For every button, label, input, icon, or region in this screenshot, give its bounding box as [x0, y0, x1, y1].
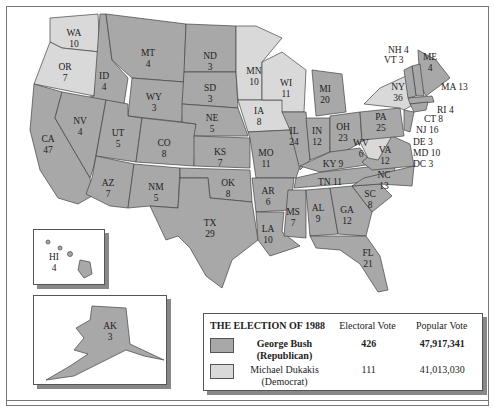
svg-text:ND: ND [203, 51, 217, 61]
candidate-name: Michael Dukakis [240, 364, 329, 376]
svg-text:20: 20 [320, 95, 330, 105]
svg-text:IN: IN [312, 126, 322, 136]
svg-text:SD: SD [204, 83, 216, 93]
svg-text:4: 4 [78, 127, 83, 137]
svg-text:11: 11 [281, 89, 290, 99]
svg-text:3: 3 [208, 62, 213, 72]
svg-text:12: 12 [312, 137, 322, 147]
svg-text:AZ: AZ [102, 178, 115, 188]
electoral-vote: 426 [329, 338, 408, 349]
svg-text:NJ 16: NJ 16 [416, 125, 439, 135]
svg-text:UT: UT [112, 128, 125, 138]
svg-text:12: 12 [342, 216, 352, 226]
svg-text:23: 23 [338, 133, 348, 143]
republican-swatch [210, 338, 234, 353]
candidate-party: (Democrat) [240, 376, 329, 388]
svg-text:NE: NE [206, 113, 219, 123]
svg-text:4: 4 [428, 63, 433, 73]
svg-text:5: 5 [116, 139, 121, 149]
svg-text:NM: NM [148, 182, 164, 192]
popular-vote-header: Popular Vote [408, 320, 476, 331]
svg-text:NH 4: NH 4 [388, 45, 409, 55]
hawaii-inset: HI 4 [33, 229, 105, 285]
svg-text:GA: GA [340, 205, 354, 215]
svg-text:MT: MT [141, 48, 155, 58]
svg-text:TX: TX [204, 218, 217, 228]
svg-text:ME: ME [423, 52, 437, 62]
svg-text:NC: NC [377, 170, 390, 180]
svg-text:3: 3 [152, 103, 157, 113]
svg-text:DE 3: DE 3 [413, 137, 433, 147]
democrat-swatch [210, 364, 234, 379]
svg-text:VA: VA [379, 145, 392, 155]
svg-text:OR: OR [58, 62, 72, 72]
svg-text:TN 11: TN 11 [318, 177, 342, 187]
svg-text:10: 10 [249, 77, 259, 87]
svg-text:47: 47 [43, 145, 53, 155]
svg-text:8: 8 [257, 117, 262, 127]
svg-text:DC 3: DC 3 [413, 159, 434, 169]
svg-text:AL: AL [312, 203, 325, 213]
popular-vote: 47,917,341 [408, 338, 476, 349]
alaska-inset: AK 3 [33, 295, 167, 385]
legend-title: THE ELECTION OF 1988 [210, 320, 327, 331]
svg-text:MS: MS [286, 207, 300, 217]
svg-text:IL: IL [290, 126, 299, 136]
svg-text:7: 7 [291, 218, 296, 228]
svg-text:NV: NV [73, 116, 87, 126]
svg-text:MA 13: MA 13 [441, 82, 468, 92]
svg-text:4: 4 [102, 82, 107, 92]
electoral-vote-header: Electoral Vote [327, 320, 407, 331]
svg-text:MO: MO [258, 148, 273, 158]
svg-text:WA: WA [67, 28, 82, 38]
candidate-party: (Republican) [240, 350, 329, 362]
svg-text:4: 4 [146, 59, 151, 69]
legend-row-bush: George Bush (Republican) 426 47,917,341 [210, 338, 476, 362]
svg-text:PA: PA [375, 112, 386, 122]
election-legend: THE ELECTION OF 1988 Electoral Vote Popu… [203, 313, 483, 391]
svg-text:NY: NY [391, 82, 405, 92]
svg-text:12: 12 [380, 156, 390, 166]
svg-text:24: 24 [289, 137, 299, 147]
state-ct-ri [410, 102, 428, 112]
svg-text:8: 8 [368, 200, 373, 210]
svg-text:21: 21 [363, 259, 373, 269]
svg-text:IA: IA [254, 106, 264, 116]
svg-text:9: 9 [316, 214, 321, 224]
svg-text:8: 8 [162, 149, 167, 159]
svg-text:3: 3 [108, 332, 113, 342]
legend-row-dukakis: Michael Dukakis (Democrat) 111 41,013,03… [210, 364, 476, 388]
svg-text:CO: CO [157, 138, 170, 148]
svg-text:CA: CA [41, 134, 54, 144]
svg-text:7: 7 [218, 158, 223, 168]
svg-text:LA: LA [262, 224, 275, 234]
svg-text:8: 8 [226, 189, 231, 199]
svg-text:25: 25 [376, 123, 386, 133]
svg-text:13: 13 [379, 181, 389, 191]
svg-text:10: 10 [69, 39, 79, 49]
svg-text:KY 9: KY 9 [323, 159, 344, 169]
svg-text:VT 3: VT 3 [384, 55, 404, 65]
svg-text:WI: WI [280, 78, 292, 88]
svg-text:36: 36 [393, 93, 403, 103]
svg-text:SC: SC [364, 189, 376, 199]
svg-text:10: 10 [263, 235, 273, 245]
svg-text:AK: AK [103, 321, 117, 331]
svg-text:OH: OH [336, 122, 350, 132]
svg-text:KS: KS [214, 147, 226, 157]
svg-text:FL: FL [362, 248, 373, 258]
svg-text:WV: WV [353, 138, 369, 148]
state-nj [404, 110, 414, 132]
svg-text:OK: OK [221, 178, 235, 188]
electoral-vote: 111 [329, 364, 408, 375]
svg-text:CT 8: CT 8 [424, 114, 443, 124]
svg-text:4: 4 [52, 263, 57, 273]
state-hi [78, 260, 92, 278]
state-ak [46, 306, 164, 380]
candidate-name: George Bush [240, 338, 329, 350]
svg-text:3: 3 [208, 94, 213, 104]
svg-text:MI: MI [319, 84, 331, 94]
svg-text:MN: MN [246, 66, 261, 76]
svg-text:11: 11 [261, 159, 270, 169]
svg-text:MD 10: MD 10 [413, 148, 440, 158]
